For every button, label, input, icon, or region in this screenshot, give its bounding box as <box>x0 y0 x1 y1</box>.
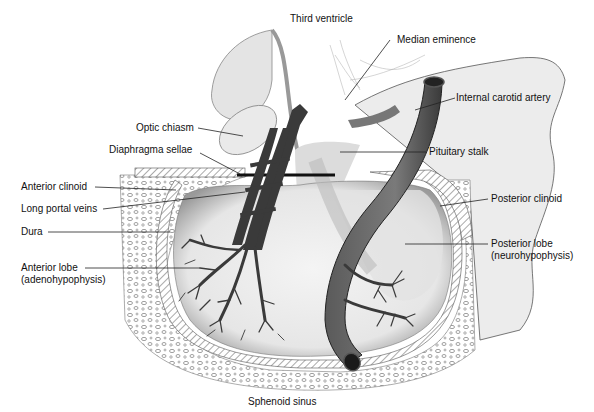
anterior-clinoid-hatch <box>135 168 245 177</box>
label-posterior-lobe-line1: Posterior lobe <box>491 238 573 250</box>
label-anterior-lobe-line2: (adenohypophysis) <box>21 274 106 286</box>
label-long-portal-veins: Long portal veins <box>21 203 97 215</box>
label-internal-carotid-artery: Internal carotid artery <box>456 92 551 104</box>
label-sphenoid-sinus: Sphenoid sinus <box>248 396 316 408</box>
label-posterior-clinoid: Posterior clinoid <box>491 193 562 205</box>
label-anterior-clinoid: Anterior clinoid <box>21 181 87 193</box>
carotid-opening-top <box>424 77 444 87</box>
label-posterior-lobe: Posterior lobe (neurohypophysis) <box>491 238 573 262</box>
label-anterior-lobe-line1: Anterior lobe <box>21 262 106 274</box>
label-diaphragma-sellae: Diaphragma sellae <box>109 144 192 156</box>
label-anterior-lobe: Anterior lobe (adenohypophysis) <box>21 262 106 286</box>
label-dura: Dura <box>21 226 43 238</box>
label-posterior-lobe-line2: (neurohypophysis) <box>491 250 573 262</box>
label-third-ventricle: Third ventricle <box>290 13 353 25</box>
label-optic-chiasm: Optic chiasm <box>136 122 194 134</box>
label-median-eminence: Median eminence <box>397 34 476 46</box>
label-pituitary-stalk: Pituitary stalk <box>429 146 488 158</box>
